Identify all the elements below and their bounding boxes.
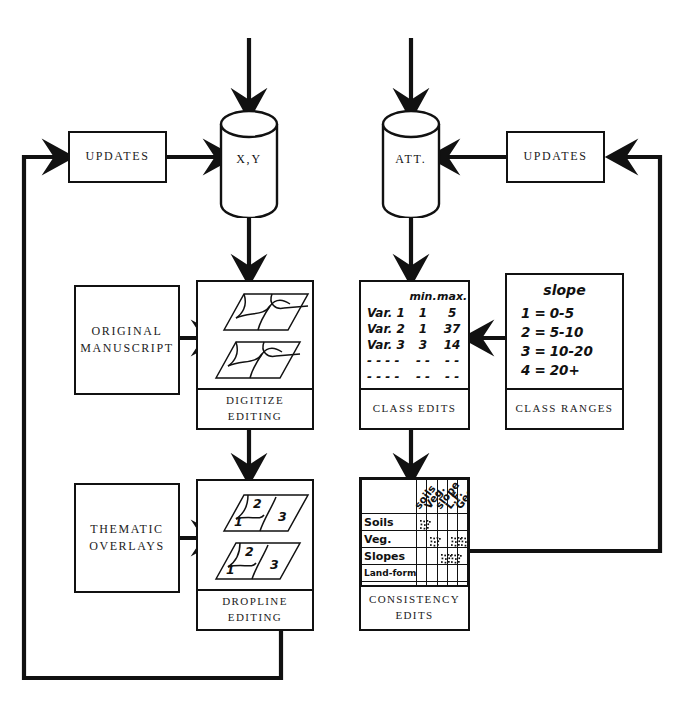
class-edits-cell-2-min: 3 xyxy=(409,337,437,353)
consistency-cell-1-4[interactable] xyxy=(457,531,467,548)
consistency-cell-mark xyxy=(430,534,433,544)
class-ranges-caption: CLASS RANGES xyxy=(507,388,622,428)
consistency-cell-2-3[interactable] xyxy=(447,548,457,565)
dropline-editing-caption: DROPLINE EDITING xyxy=(198,589,312,629)
consistency-cell-3-0[interactable] xyxy=(417,565,427,582)
class-edits-table-area: min.max.Var. 115Var. 2137Var. 3314- - - … xyxy=(361,282,468,388)
class-edits-cell-1-min: 1 xyxy=(409,321,437,337)
class-ranges-row: 1=0-5 xyxy=(519,303,595,322)
class-ranges-cell-0-eq: = xyxy=(532,303,547,322)
class-ranges-heading: slope xyxy=(507,282,622,298)
class-ranges-cell-3-eq: = xyxy=(532,360,547,379)
consistency-matrix-row: Slopes xyxy=(362,548,468,565)
class-ranges-row: 3=10-20 xyxy=(519,341,595,360)
consistency-row-header-0: Soils xyxy=(362,514,417,531)
svg-text:3: 3 xyxy=(278,509,287,524)
class-edits-box[interactable]: min.max.Var. 115Var. 2137Var. 3314- - - … xyxy=(359,280,470,430)
class-edits-cell-0-var: Var. 1 xyxy=(367,305,409,321)
consistency-matrix: soilsVeg.slopeL.F.GeoSoilsVeg.SlopesLand… xyxy=(361,479,468,585)
class-ranges-box[interactable]: slope 1=0-52=5-103=10-204=20+ CLASS RANG… xyxy=(505,273,624,430)
svg-text:3: 3 xyxy=(270,557,279,572)
class-ranges-row: 2=5-10 xyxy=(519,322,595,341)
class-ranges-cell-2-eq: = xyxy=(532,341,547,360)
consistency-row-header-2: Slopes xyxy=(362,548,417,565)
updates-left-label: UPDATES xyxy=(86,148,150,165)
data-store-xy[interactable]: X,Y xyxy=(219,110,279,218)
dropline-caption-line1: DROPLINE xyxy=(222,594,288,610)
class-edits-row: Var. 115 xyxy=(367,305,467,321)
consistency-cell-0-1[interactable] xyxy=(427,514,437,531)
class-edits-caption: CLASS EDITS xyxy=(361,388,468,428)
consistency-cell-2-4[interactable] xyxy=(457,548,467,565)
consistency-matrix-corner xyxy=(362,480,417,514)
data-store-xy-label: X,Y xyxy=(219,152,279,167)
class-edits-row: Var. 3314 xyxy=(367,337,467,353)
thematic-overlays-line2: OVERLAYS xyxy=(89,538,165,555)
consistency-cell-2-0[interactable] xyxy=(417,548,427,565)
consistency-cell-mark xyxy=(461,534,464,544)
consistency-col-header-2: slope xyxy=(437,480,447,514)
consistency-matrix-area: soilsVeg.slopeL.F.GeoSoilsVeg.SlopesLand… xyxy=(361,479,468,585)
class-edits-table: min.max.Var. 115Var. 2137Var. 3314- - - … xyxy=(367,288,467,385)
updates-box-right[interactable]: UPDATES xyxy=(506,131,605,183)
svg-text:2: 2 xyxy=(245,544,254,559)
class-edits-header-0 xyxy=(367,288,409,305)
consistency-col-header-3: L.F. xyxy=(447,480,457,514)
class-edits-row: - - - -- -- - xyxy=(367,369,467,385)
consistency-cell-1-1[interactable] xyxy=(427,531,437,548)
consistency-matrix-row: Soils xyxy=(362,514,468,531)
source-box-thematic-overlays[interactable]: THEMATIC OVERLAYS xyxy=(74,483,180,593)
class-ranges-cell-1-eq: = xyxy=(532,322,547,341)
data-store-att[interactable]: ATT. xyxy=(381,110,441,218)
consistency-cell-mark xyxy=(451,534,454,544)
process-box-dropline-editing[interactable]: 2 1 3 2 1 3 DROPLINE xyxy=(196,479,314,631)
consistency-matrix-row: Land-form xyxy=(362,565,468,582)
class-edits-cell-1-var: Var. 2 xyxy=(367,321,409,337)
data-store-att-label: ATT. xyxy=(381,152,441,167)
consistency-cell-0-4[interactable] xyxy=(457,514,467,531)
class-ranges-cell-3-code: 4 xyxy=(519,360,532,379)
process-box-digitize-editing[interactable]: DIGITIZE EDITING xyxy=(196,280,314,430)
svg-text:1: 1 xyxy=(226,562,235,577)
consistency-edits-caption: CONSISTENCY EDITS xyxy=(361,585,468,629)
class-edits-cell-3-min: - - xyxy=(409,353,437,369)
consistency-cell-0-3[interactable] xyxy=(447,514,457,531)
consistency-cell-mark xyxy=(451,551,454,561)
source-box-original-manuscript[interactable]: ORIGINAL MANUSCRIPT xyxy=(74,285,180,395)
consistency-cell-2-2[interactable] xyxy=(437,548,447,565)
consistency-cell-0-2[interactable] xyxy=(437,514,447,531)
class-edits-row: - - - -- -- - xyxy=(367,353,467,369)
class-edits-cell-1-max: 37 xyxy=(437,321,467,337)
class-ranges-row: 4=20+ xyxy=(519,360,595,379)
consistency-cell-3-2[interactable] xyxy=(437,565,447,582)
consistency-cell-2-1[interactable] xyxy=(427,548,437,565)
digitize-caption-line2: EDITING xyxy=(226,409,284,425)
consistency-cell-3-3[interactable] xyxy=(447,565,457,582)
consistency-col-header-1: Veg. xyxy=(427,480,437,514)
consistency-row-header-1: Veg. xyxy=(362,531,417,548)
class-ranges-cell-0-code: 1 xyxy=(519,303,532,322)
class-ranges-cell-1-code: 2 xyxy=(519,322,532,341)
consistency-cell-1-2[interactable] xyxy=(437,531,447,548)
class-ranges-cell-2-range: 10-20 xyxy=(548,341,595,360)
consistency-cell-1-3[interactable] xyxy=(447,531,457,548)
class-edits-cell-2-var: Var. 3 xyxy=(367,337,409,353)
svg-text:2: 2 xyxy=(253,496,262,511)
consistency-edits-box[interactable]: soilsVeg.slopeL.F.GeoSoilsVeg.SlopesLand… xyxy=(359,477,470,631)
class-edits-cell-3-max: - - xyxy=(437,353,467,369)
updates-box-left[interactable]: UPDATES xyxy=(68,131,167,183)
consistency-col-header-4: Geo xyxy=(457,480,467,514)
class-edits-header-1: min. xyxy=(409,288,437,305)
consistency-cell-3-1[interactable] xyxy=(427,565,437,582)
consistency-cell-3-4[interactable] xyxy=(457,565,467,582)
original-manuscript-line2: MANUSCRIPT xyxy=(80,340,173,357)
class-edits-caption-label: CLASS EDITS xyxy=(373,401,457,417)
thematic-overlays-line1: THEMATIC xyxy=(90,521,163,538)
consistency-cell-0-0[interactable] xyxy=(417,514,427,531)
consistency-row-header-3: Land-form xyxy=(362,565,417,582)
class-edits-cell-0-min: 1 xyxy=(409,305,437,321)
class-edits-cell-3-var: - - - - xyxy=(367,353,409,369)
consistency-cell-mark xyxy=(420,517,423,527)
consistency-cell-1-0[interactable] xyxy=(417,531,427,548)
consistency-matrix-row: Veg. xyxy=(362,531,468,548)
